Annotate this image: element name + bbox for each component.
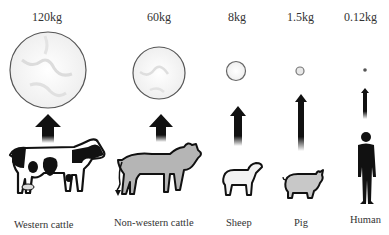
animal-label-western-cattle: Western cattle (14, 219, 74, 230)
human-silhouette-icon (358, 132, 376, 204)
circle-pig (296, 67, 304, 75)
arrow-up-icon (361, 88, 369, 119)
animal-label-human: Human (350, 214, 381, 225)
pig-illustration (283, 170, 323, 198)
animal-label-sheep: Sheep (226, 217, 252, 228)
circle-western-cattle (10, 32, 86, 108)
circle-non-western-cattle (133, 47, 185, 99)
non-western-cattle-illustration (115, 143, 201, 196)
circle-sheep (227, 62, 246, 81)
arrow-up-icon (295, 94, 307, 151)
arrow-up-icon (35, 114, 61, 143)
arrow-up-icon (149, 114, 173, 142)
diagram-canvas (0, 0, 389, 235)
circle-human (363, 68, 367, 72)
western-cattle-illustration (10, 139, 105, 193)
animal-label-pig: Pig (294, 217, 308, 228)
arrow-up-icon (230, 106, 246, 146)
sheep-illustration (223, 163, 262, 195)
animal-label-non-western-cattle: Non-western cattle (114, 217, 194, 228)
